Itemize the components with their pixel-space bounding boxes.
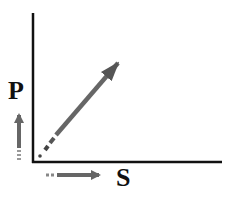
- diagonal-trend-arrow: [38, 63, 118, 158]
- x-axis-label: S: [116, 165, 130, 191]
- p-vs-s-diagram: P S: [0, 0, 231, 200]
- axes: [32, 13, 222, 163]
- vertical-increase-arrow: [17, 115, 21, 159]
- y-axis-label: P: [8, 78, 24, 104]
